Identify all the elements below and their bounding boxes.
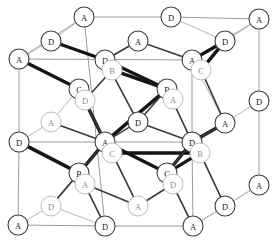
atom-label: A xyxy=(16,55,23,65)
atom-node-a: A xyxy=(8,215,28,235)
atom-label: A xyxy=(135,37,142,47)
atom-node-d: D xyxy=(215,31,235,51)
atom-label: A xyxy=(135,202,142,212)
atom-label: D xyxy=(222,37,228,47)
atom-label: D xyxy=(102,222,108,232)
atom-label: D xyxy=(48,202,54,212)
atom-node-c: C xyxy=(191,60,211,80)
atom-node-d: D xyxy=(41,31,61,51)
atom-label: A xyxy=(81,13,88,23)
atom-node-a: A xyxy=(249,9,269,29)
atom-node-d: D xyxy=(128,112,148,132)
atom-node-d: D xyxy=(161,7,181,27)
atom-node-a: A xyxy=(41,112,61,132)
atom-label: B xyxy=(109,66,115,76)
atom-node-a: A xyxy=(74,7,94,27)
atom-node-a: A xyxy=(163,89,183,109)
atom-node-a: A xyxy=(215,113,235,133)
atom-label: D xyxy=(222,202,228,212)
atom-node-c: C xyxy=(102,143,122,163)
atom-node-d: D xyxy=(163,174,183,194)
atom-label: A xyxy=(170,95,177,105)
crystal-lattice-figure: ADADADADABCCBDADADADADCBBCADADADADA xyxy=(0,0,276,242)
atom-node-a: A xyxy=(75,174,95,194)
atom-node-a: A xyxy=(9,49,29,69)
atom-label: B xyxy=(197,149,203,159)
atom-label: D xyxy=(256,97,262,107)
atom-label: A xyxy=(222,119,229,129)
atom-node-a: A xyxy=(128,196,148,216)
atom-label: C xyxy=(109,149,115,159)
atom-label: D xyxy=(16,138,22,148)
atom-label: A xyxy=(82,180,89,190)
atom-label: D xyxy=(135,118,141,128)
atom-node-d: D xyxy=(9,132,29,152)
atom-node-a: A xyxy=(183,216,203,236)
atom-node-d: D xyxy=(249,91,269,111)
atom-node-a: A xyxy=(128,31,148,51)
atom-node-d: D xyxy=(75,90,95,110)
atom-label: D xyxy=(48,37,54,47)
atom-label: A xyxy=(190,222,197,232)
atom-label: D xyxy=(170,180,176,190)
atom-node-d: D xyxy=(215,196,235,216)
atom-node-d: D xyxy=(95,216,115,236)
atom-label: A xyxy=(256,15,263,25)
atom-label: C xyxy=(198,66,204,76)
atom-label: A xyxy=(15,221,22,231)
atom-label: A xyxy=(256,181,263,191)
atom-label: A xyxy=(48,118,55,128)
atom-node-b: B xyxy=(190,143,210,163)
atom-label: D xyxy=(82,96,88,106)
atom-node-b: B xyxy=(102,60,122,80)
atom-label: D xyxy=(168,13,174,23)
atom-node-a: A xyxy=(249,175,269,195)
atom-node-d: D xyxy=(41,196,61,216)
atom-node-layer: ADADADADABCCBDADADADADCBBCADADADADA xyxy=(8,7,269,236)
